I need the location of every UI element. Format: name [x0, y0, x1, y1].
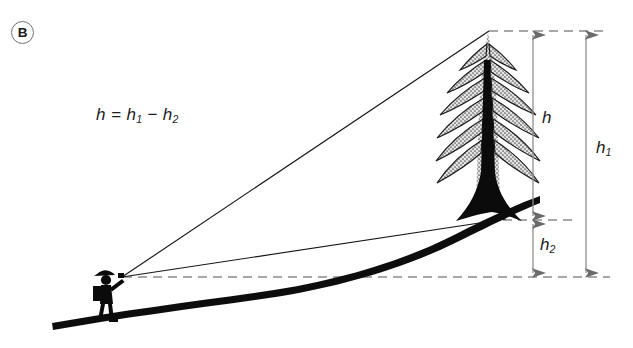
- diagram-svg: [0, 0, 633, 348]
- panel-label-badge: B: [11, 21, 34, 44]
- formula-equals: =: [111, 105, 121, 124]
- sight-line-to-tree-base: [122, 219, 506, 277]
- dimension-label-h: h: [542, 109, 551, 126]
- formula-term2: h: [163, 105, 173, 124]
- dimension-label-h2-subscript: 2: [549, 243, 555, 255]
- formula-height-difference: h = h1 − h2: [96, 105, 178, 125]
- formula-term1: h: [126, 105, 136, 124]
- dimension-label-h2: h2: [540, 236, 555, 254]
- dimension-label-h1: h1: [596, 139, 611, 157]
- panel-label-text: B: [18, 26, 28, 40]
- conifer-tree: [436, 32, 540, 221]
- formula-lhs: h: [96, 105, 106, 124]
- dimension-label-h-symbol: h: [542, 108, 551, 127]
- formula-term1-subscript: 1: [136, 113, 142, 125]
- figure-canvas: B h = h1 − h2 h h1 h2: [0, 0, 633, 348]
- dimension-label-h1-subscript: 1: [605, 146, 611, 158]
- sight-line-to-treetop: [122, 31, 489, 277]
- formula-term2-subscript: 2: [173, 113, 179, 125]
- formula-minus: −: [147, 105, 157, 124]
